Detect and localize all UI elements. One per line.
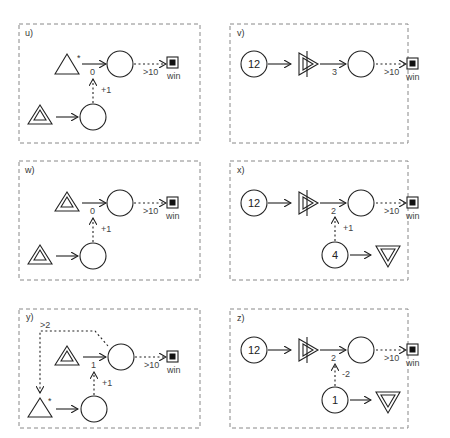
win-end-fill	[410, 347, 416, 353]
panel-z: z) 12 2 >10 win 1 -2	[230, 309, 420, 428]
edge-mod-label: -2	[342, 369, 350, 379]
pool-circle	[348, 190, 374, 216]
win-label: win	[405, 211, 420, 221]
win-end-fill	[410, 61, 416, 67]
edge-main-label: 2	[331, 206, 336, 216]
diagram-canvas: u) * 0 >10 win +1 v) 12 3 >10	[0, 0, 450, 438]
converter-icon	[299, 337, 318, 363]
win-condition-label: >10	[143, 206, 158, 216]
pool-circle	[80, 104, 106, 130]
win-condition-label: >10	[144, 360, 159, 370]
pool-circle	[107, 190, 133, 216]
edge-mod-label: +1	[101, 224, 111, 234]
edge-main-label: 0	[90, 206, 95, 216]
pool-circle	[81, 396, 107, 422]
panel-label: w)	[24, 165, 35, 175]
source-pool-value: 12	[248, 344, 260, 356]
panel-u: u) * 0 >10 win +1	[19, 24, 200, 143]
panel-w: w) 0 >10 win +1	[19, 161, 200, 280]
win-label: win	[405, 72, 420, 82]
panel-label: y)	[26, 312, 34, 322]
converter-icon	[299, 51, 318, 77]
panel-border	[19, 24, 200, 143]
pool-circle	[348, 337, 374, 363]
edge-main-label: 3	[332, 67, 337, 77]
trigger-label: >2	[40, 320, 50, 330]
star-marker: *	[48, 396, 52, 406]
win-label: win	[165, 211, 180, 221]
win-end-fill	[170, 60, 176, 66]
panel-label: u)	[25, 28, 33, 38]
win-label: win	[405, 358, 420, 368]
converter-icon	[299, 190, 318, 216]
panel-border	[230, 161, 408, 280]
panel-v: v) 12 3 >10 win	[230, 24, 420, 143]
win-end-fill	[170, 354, 176, 360]
source-triangle-icon	[55, 54, 79, 74]
win-condition-label: >10	[384, 206, 399, 216]
win-condition-label: >10	[384, 353, 399, 363]
panel-label: v)	[237, 28, 245, 38]
source-pool-value: 12	[248, 197, 260, 209]
pool-circle	[80, 243, 106, 269]
edge-main-label: 0	[90, 67, 95, 77]
panel-y: y) >2 1 >10 win * +1	[19, 309, 200, 428]
pool-value: 4	[332, 249, 338, 261]
win-condition-label: >10	[384, 67, 399, 77]
pool-circle	[348, 51, 374, 77]
win-end-fill	[170, 200, 176, 206]
edge-mod-label: +1	[101, 85, 111, 95]
pool-circle	[107, 51, 133, 77]
edge-main-label: 1	[91, 360, 96, 370]
pool-circle	[108, 344, 134, 370]
edge-mod-label: +1	[343, 223, 353, 233]
edge-mod-label: +1	[102, 378, 112, 388]
panel-border	[230, 24, 408, 143]
edge-main-label: 2	[331, 353, 336, 363]
win-label: win	[166, 365, 181, 375]
panel-x: x) 12 2 >10 win 4 +1	[230, 161, 420, 280]
win-label: win	[166, 71, 181, 81]
panel-label: x)	[237, 165, 245, 175]
star-marker: *	[77, 53, 81, 63]
win-condition-label: >10	[143, 67, 158, 77]
panel-border	[230, 309, 408, 428]
pool-value: 1	[332, 394, 338, 406]
source-pool-value: 12	[248, 58, 260, 70]
win-end-fill	[410, 200, 416, 206]
panel-label: z)	[237, 313, 245, 323]
